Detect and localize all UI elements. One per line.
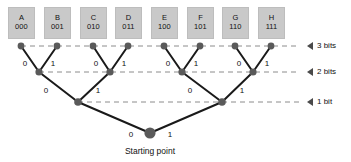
node-depth3-b bbox=[54, 43, 61, 50]
row-label-text: 2 bits bbox=[317, 67, 336, 76]
bit-label-d3-0a: 0 bbox=[23, 59, 27, 68]
leaf-code: 110 bbox=[229, 23, 241, 32]
bit-label-d1-0: 0 bbox=[129, 130, 133, 139]
bit-label-d3-0d: 0 bbox=[237, 59, 241, 68]
node-depth2-2 bbox=[106, 68, 113, 75]
left-arrow-icon bbox=[307, 68, 313, 76]
edge-d1a-1 bbox=[78, 72, 110, 102]
node-depth1-2 bbox=[218, 98, 226, 106]
bit-label-d2-1a: 1 bbox=[96, 86, 100, 95]
edge-d1b-1 bbox=[222, 72, 253, 102]
node-depth3-a bbox=[18, 43, 25, 50]
row-label-1-bit: 1 bit bbox=[307, 97, 332, 106]
bit-label-d3-1d: 1 bbox=[265, 59, 269, 68]
tree-edges bbox=[21, 46, 271, 133]
node-depth3-h bbox=[268, 43, 275, 50]
node-depth2-1 bbox=[35, 68, 42, 75]
node-root-starting-point bbox=[144, 127, 155, 138]
node-depth3-c bbox=[90, 43, 97, 50]
node-depth2-4 bbox=[249, 68, 256, 75]
node-depth2-3 bbox=[178, 68, 185, 75]
row-label-text: 1 bit bbox=[317, 97, 332, 106]
leaf-code: 111 bbox=[266, 23, 278, 32]
node-depth1-1 bbox=[74, 98, 82, 106]
node-depth3-e bbox=[161, 43, 168, 50]
left-arrow-icon bbox=[307, 42, 313, 50]
bit-label-d1-1: 1 bbox=[168, 130, 172, 139]
bit-label-d3-0c: 0 bbox=[166, 59, 170, 68]
leaf-code: 011 bbox=[122, 23, 134, 32]
node-depth3-g bbox=[232, 43, 239, 50]
bit-label-d2-0b: 0 bbox=[188, 86, 192, 95]
node-depth3-f bbox=[197, 43, 204, 50]
leaf-code: 101 bbox=[194, 23, 207, 32]
row-label-2-bits: 2 bits bbox=[307, 67, 336, 76]
bit-label-d3-1b: 1 bbox=[122, 59, 126, 68]
edge-root-0 bbox=[78, 102, 150, 133]
leaf-box-c: C 010 bbox=[80, 7, 107, 39]
leaf-box-g: G 110 bbox=[222, 7, 249, 39]
bit-label-d3-1c: 1 bbox=[194, 59, 198, 68]
bit-label-d3-0b: 0 bbox=[94, 59, 98, 68]
leaf-code: 000 bbox=[15, 23, 28, 32]
figure-canvas: A 000 B 001 C 010 D 011 E 100 F 101 G 11… bbox=[0, 0, 351, 162]
leaf-code: 001 bbox=[51, 23, 64, 32]
leaf-box-h: H 111 bbox=[258, 7, 285, 39]
leaf-box-a: A 000 bbox=[8, 7, 35, 39]
row-label-3-bits: 3 bits bbox=[307, 41, 336, 50]
bit-label-d2-0a: 0 bbox=[44, 86, 48, 95]
left-arrow-icon bbox=[307, 98, 313, 106]
leaf-code: 010 bbox=[87, 23, 100, 32]
edge-root-1 bbox=[150, 102, 222, 133]
leaf-box-d: D 011 bbox=[115, 7, 142, 39]
bit-label-d2-1b: 1 bbox=[240, 86, 244, 95]
leaf-box-f: F 101 bbox=[187, 7, 214, 39]
leaf-box-e: E 100 bbox=[151, 7, 178, 39]
bit-label-d3-1a: 1 bbox=[51, 59, 55, 68]
row-label-text: 3 bits bbox=[317, 41, 336, 50]
leaf-code: 100 bbox=[158, 23, 171, 32]
guide-lines bbox=[21, 46, 300, 102]
tree-nodes bbox=[18, 43, 275, 139]
node-depth3-d bbox=[125, 43, 132, 50]
leaf-box-b: B 001 bbox=[44, 7, 71, 39]
starting-point-caption: Starting point bbox=[125, 146, 175, 156]
